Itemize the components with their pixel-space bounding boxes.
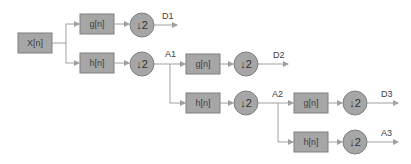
a1-label: A1 xyxy=(165,49,176,59)
level1-low-filter: h[n] xyxy=(80,53,114,73)
svg-text:↓2: ↓2 xyxy=(136,58,148,70)
level3-low-filter: h[n] xyxy=(294,132,328,152)
svg-text:g[n]: g[n] xyxy=(89,19,104,29)
input-block: X[n] xyxy=(18,33,52,53)
level2-low-filter: h[n] xyxy=(186,93,220,113)
svg-text:↓2: ↓2 xyxy=(240,58,252,70)
svg-text:↓2: ↓2 xyxy=(349,136,361,148)
level1-high-downsampler: ↓2 xyxy=(130,13,154,37)
connector-input-to-g1 xyxy=(52,24,79,43)
level2-high-filter: g[n] xyxy=(186,54,220,74)
svg-text:↓2: ↓2 xyxy=(349,97,361,109)
a3-label: A3 xyxy=(381,128,392,138)
connector-a1-to-h2 xyxy=(170,64,185,103)
svg-text:↓2: ↓2 xyxy=(240,97,252,109)
d1-label: D1 xyxy=(162,11,174,21)
a2-label: A2 xyxy=(272,89,283,99)
level3-high-filter: g[n] xyxy=(294,93,328,113)
level1-low-downsampler: ↓2 xyxy=(130,52,154,76)
input-label: X[n] xyxy=(27,38,43,48)
d3-label: D3 xyxy=(381,89,393,99)
level3-high-downsampler: ↓2 xyxy=(343,91,367,115)
level1-high-filter: g[n] xyxy=(80,14,114,34)
level2-high-downsampler: ↓2 xyxy=(234,52,258,76)
svg-text:↓2: ↓2 xyxy=(136,19,148,31)
svg-text:h[n]: h[n] xyxy=(89,58,104,68)
svg-text:h[n]: h[n] xyxy=(195,98,210,108)
svg-text:g[n]: g[n] xyxy=(303,98,318,108)
filter-bank-diagram: X[n] g[n] ↓2 D1 h[n] ↓2 A1 g[n] ↓2 D2 h[… xyxy=(0,0,411,164)
connector-input-to-h1 xyxy=(66,43,79,63)
connector-a2-to-h3 xyxy=(278,103,293,142)
svg-text:g[n]: g[n] xyxy=(195,59,210,69)
level3-low-downsampler: ↓2 xyxy=(343,130,367,154)
d2-label: D2 xyxy=(273,50,285,60)
svg-text:h[n]: h[n] xyxy=(303,137,318,147)
level2-low-downsampler: ↓2 xyxy=(234,91,258,115)
